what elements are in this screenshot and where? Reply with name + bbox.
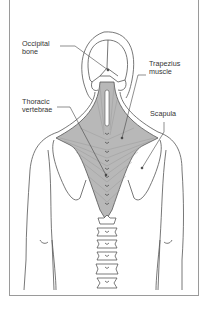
trapezius-muscle: [56, 82, 158, 220]
label-thoracic-vertebrae: Thoracic vertebrae: [22, 98, 52, 115]
label-scapula: Scapula: [150, 110, 176, 118]
label-trapezius-muscle: Trapezius muscle: [149, 60, 180, 77]
label-occipital-bone: Occipital bone: [22, 40, 50, 57]
lumbar-vertebrae: [96, 215, 118, 288]
